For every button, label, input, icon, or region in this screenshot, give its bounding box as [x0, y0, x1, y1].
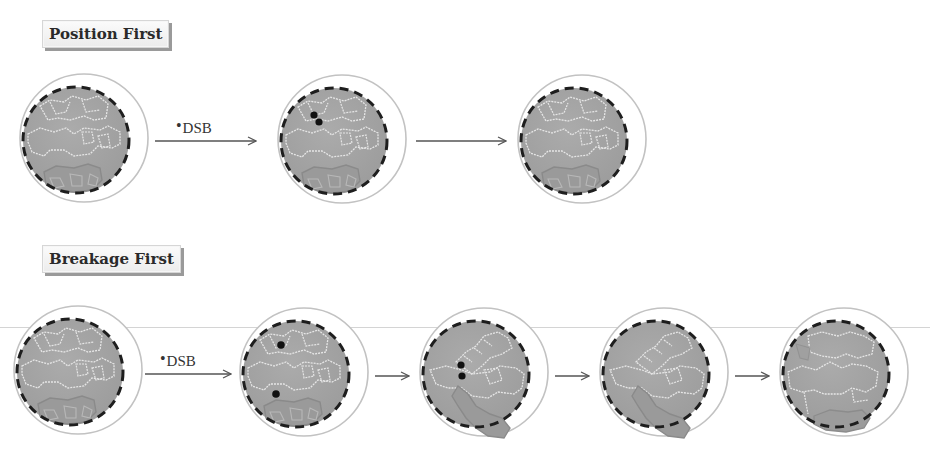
- dsb-dot: [457, 361, 464, 368]
- dsb-dot: [272, 390, 280, 398]
- cell-position-first-2: [278, 75, 406, 203]
- dsb-dot: [310, 111, 317, 118]
- cell-breakage-first-2: [240, 308, 368, 436]
- cell-breakage-first-4: [600, 308, 728, 438]
- dsb-dot: [315, 118, 322, 125]
- cells-svg: [0, 0, 930, 454]
- dsb-dot: [458, 372, 465, 379]
- cell-breakage-first-3: [420, 308, 548, 438]
- cell-position-first-1: [20, 74, 148, 202]
- cell-position-first-3: [518, 75, 646, 203]
- dsb-dot: [277, 341, 285, 349]
- cell-breakage-first-5: [780, 308, 908, 436]
- cell-breakage-first-1: [14, 306, 142, 434]
- diagram-canvas: Position First Breakage First •DSB •DSB: [0, 0, 930, 454]
